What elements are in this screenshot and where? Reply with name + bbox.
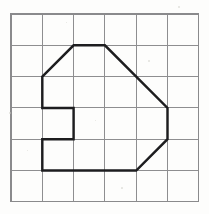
polygon-grid-figure — [0, 0, 209, 214]
paper-speck — [121, 187, 123, 189]
paper-speck — [178, 6, 180, 8]
figure-container — [0, 0, 209, 214]
paper-speck — [9, 112, 11, 114]
paper-speck — [148, 60, 150, 62]
